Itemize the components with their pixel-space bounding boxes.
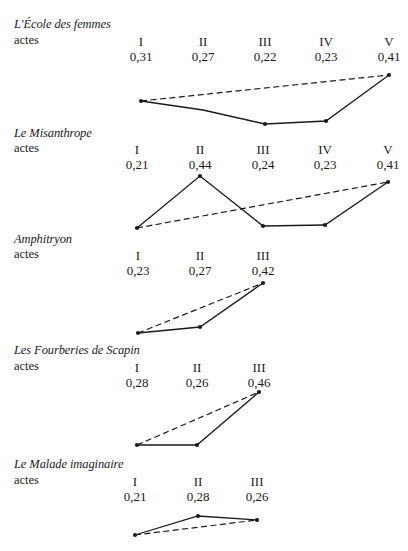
- act-value: 0,23: [300, 157, 350, 172]
- act-column: I0,23: [113, 248, 163, 278]
- data-point-marker: [263, 122, 267, 126]
- act-value: 0,23: [113, 263, 163, 278]
- act-value: 0,44: [175, 157, 225, 172]
- act-column: I0,31: [116, 34, 166, 64]
- act-numeral: I: [110, 474, 160, 489]
- act-column: III0,42: [238, 248, 288, 278]
- play-title: L'École des femmes: [14, 17, 111, 32]
- act-numeral: III: [238, 248, 288, 263]
- actes-label: actes: [14, 141, 39, 156]
- data-point-marker: [135, 443, 139, 447]
- data-point-marker: [387, 73, 391, 77]
- act-numeral: IV: [300, 142, 350, 157]
- play-title: Amphitryon: [14, 232, 72, 247]
- act-numeral: III: [240, 34, 290, 49]
- act-numeral: IV: [301, 34, 351, 49]
- act-value: 0,21: [112, 157, 162, 172]
- act-column: II0,27: [178, 34, 228, 64]
- data-point-marker: [198, 325, 202, 329]
- act-numeral: II: [175, 142, 225, 157]
- act-value-line: [141, 75, 389, 124]
- act-column: II0,44: [175, 142, 225, 172]
- play-title: Le Misanthrope: [14, 126, 92, 141]
- act-numeral: II: [173, 474, 223, 489]
- act-column: IV0,23: [301, 34, 351, 64]
- act-numeral: V: [364, 34, 408, 49]
- actes-label: actes: [14, 359, 39, 374]
- act-column: I0,21: [112, 142, 162, 172]
- actes-label: actes: [14, 473, 39, 488]
- act-value: 0,27: [175, 263, 225, 278]
- act-numeral: I: [112, 142, 162, 157]
- play-title: Les Fourberies de Scapin: [14, 343, 140, 358]
- act-numeral: III: [234, 360, 284, 375]
- act-column: III0,22: [240, 34, 290, 64]
- act-column: III0,26: [232, 474, 282, 504]
- data-point-marker: [136, 331, 140, 335]
- act-column: III0,24: [238, 142, 288, 172]
- act-numeral: III: [232, 474, 282, 489]
- act-column: I0,21: [110, 474, 160, 504]
- act-value: 0,31: [116, 49, 166, 64]
- act-column: II0,27: [175, 248, 225, 278]
- reference-dashed-line: [137, 392, 259, 445]
- data-point-marker: [196, 514, 200, 518]
- data-point-marker: [133, 533, 137, 537]
- reference-dashed-line: [135, 520, 257, 535]
- act-column: IV0,23: [300, 142, 350, 172]
- act-value: 0,28: [173, 489, 223, 504]
- act-value: 0,28: [112, 375, 162, 390]
- data-point-marker: [386, 180, 390, 184]
- act-value: 0,46: [234, 375, 284, 390]
- act-numeral: I: [113, 248, 163, 263]
- act-column: II0,26: [172, 360, 222, 390]
- act-column: I0,28: [112, 360, 162, 390]
- act-column: V0,41: [363, 142, 408, 172]
- reference-dashed-line: [141, 75, 389, 101]
- data-point-marker: [195, 443, 199, 447]
- act-numeral: III: [238, 142, 288, 157]
- act-numeral: V: [363, 142, 408, 157]
- data-point-marker: [324, 119, 328, 123]
- act-numeral: II: [175, 248, 225, 263]
- act-value: 0,22: [240, 49, 290, 64]
- act-column: II0,28: [173, 474, 223, 504]
- act-value: 0,24: [238, 157, 288, 172]
- act-value-line: [137, 176, 388, 228]
- reference-dashed-line: [137, 182, 388, 228]
- data-point-marker: [135, 226, 139, 230]
- act-value-line: [135, 516, 257, 535]
- act-value: 0,26: [232, 489, 282, 504]
- act-value: 0,23: [301, 49, 351, 64]
- act-column: V0,41: [364, 34, 408, 64]
- data-point-marker: [255, 518, 259, 522]
- act-value: 0,41: [364, 49, 408, 64]
- act-value: 0,26: [172, 375, 222, 390]
- actes-label: actes: [14, 33, 39, 48]
- data-point-marker: [261, 281, 265, 285]
- data-point-marker: [261, 224, 265, 228]
- act-value: 0,42: [238, 263, 288, 278]
- act-numeral: II: [172, 360, 222, 375]
- act-column: III0,46: [234, 360, 284, 390]
- act-value: 0,41: [363, 157, 408, 172]
- actes-label: actes: [14, 247, 39, 262]
- act-numeral: I: [116, 34, 166, 49]
- data-point-marker: [257, 390, 261, 394]
- play-title: Le Malade imaginaire: [14, 457, 123, 472]
- data-point-marker: [198, 174, 202, 178]
- act-numeral: I: [112, 360, 162, 375]
- data-point-marker: [139, 99, 143, 103]
- data-point-marker: [323, 223, 327, 227]
- act-numeral: II: [178, 34, 228, 49]
- act-value: 0,21: [110, 489, 160, 504]
- act-value: 0,27: [178, 49, 228, 64]
